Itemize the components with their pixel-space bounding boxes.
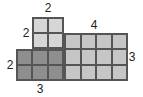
- grid-cell: [48, 33, 63, 48]
- grid-cell: [48, 50, 63, 65]
- grid-cell: [33, 18, 48, 33]
- top-block-height-label: 2: [23, 27, 30, 39]
- grid-cell: [81, 65, 97, 80]
- grid-cell: [48, 18, 63, 33]
- grid-cell: [96, 34, 112, 49]
- grid-cell: [112, 34, 128, 49]
- grid-cell: [32, 50, 47, 65]
- grid-cell: [112, 49, 128, 64]
- grid-cell: [96, 65, 112, 80]
- grid-cell: [81, 34, 97, 49]
- bottom-left-block-width-label: 3: [37, 83, 44, 95]
- grid-cell: [33, 33, 48, 48]
- grid-cell: [17, 65, 32, 80]
- grid-cell: [112, 65, 128, 80]
- right-block-height-label: 3: [129, 51, 136, 63]
- grid-cell: [48, 65, 63, 80]
- grid-cell: [81, 49, 97, 64]
- top-block-width-label: 2: [45, 2, 52, 14]
- grid-cell: [65, 65, 81, 80]
- grid-cell: [32, 65, 47, 80]
- bottom-left-block: [16, 49, 64, 81]
- right-block-width-label: 4: [91, 19, 98, 31]
- bottom-left-block-height-label: 2: [7, 59, 14, 71]
- right-block: [64, 33, 128, 81]
- grid-cell: [65, 34, 81, 49]
- grid-cell: [65, 49, 81, 64]
- grid-cell: [17, 50, 32, 65]
- grid-cell: [96, 49, 112, 64]
- area-diagram: 224323: [0, 0, 143, 97]
- top-block: [32, 17, 64, 49]
